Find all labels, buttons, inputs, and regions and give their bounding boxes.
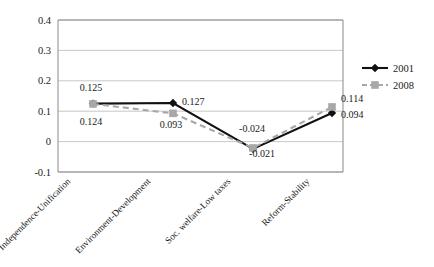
lbl-2001-2: -0.024: [239, 123, 265, 134]
legend-marker-2008: [371, 81, 379, 89]
y-tick-label: 0.2: [38, 75, 51, 86]
y-tick-label: 0.4: [38, 15, 52, 26]
chart-legend[interactable]: 20012008: [362, 63, 414, 91]
y-tick-label: -0.1: [34, 167, 51, 178]
data-point-2001-1: [169, 99, 177, 107]
lbl-2001-0: 0.125: [80, 82, 103, 93]
lbl-2001-1: 0.127: [182, 96, 205, 107]
y-tick-label: 0.1: [38, 106, 51, 117]
legend-marker-2001: [371, 64, 379, 72]
lbl-2001-3: 0.094: [341, 109, 364, 120]
lbl-2008-3: 0.114: [341, 93, 363, 104]
legend-label-2001: 2001: [393, 63, 414, 74]
line-chart: 0.40.30.20.10-0.1 0.1250.1240.1270.093-0…: [0, 0, 434, 267]
series-line-2001: [93, 103, 332, 149]
x-category-label-0: Independence-Unification: [0, 176, 73, 252]
y-axis-tick-labels: 0.40.30.20.10-0.1: [34, 15, 51, 178]
x-category-label-1: Environment-Development: [73, 176, 152, 255]
data-point-2008-1: [169, 110, 177, 118]
y-tick-label: 0.3: [38, 45, 51, 56]
series-lines: [93, 103, 332, 149]
legend-item-2001[interactable]: 2001: [362, 63, 414, 74]
chart-container: 0.40.30.20.10-0.1 0.1250.1240.1270.093-0…: [0, 0, 434, 267]
data-point-2008-3: [328, 103, 336, 111]
x-category-label-2: Soc. welfare-Low taxes: [163, 176, 233, 246]
data-value-labels: 0.1250.1240.1270.093-0.024-0.0210.1140.0…: [80, 82, 364, 159]
lbl-2008-1: 0.093: [160, 119, 183, 130]
legend-item-2008[interactable]: 2008: [362, 80, 414, 91]
x-category-label-3: Reform-Stability: [260, 176, 312, 228]
lbl-2008-0: 0.124: [80, 116, 103, 127]
lbl-2008-2: -0.021: [249, 148, 275, 159]
y-tick-label: 0: [46, 136, 51, 147]
x-axis-category-labels: Independence-UnificationEnvironment-Deve…: [0, 176, 312, 255]
data-point-2008-0: [89, 100, 97, 108]
legend-label-2008: 2008: [393, 80, 414, 91]
